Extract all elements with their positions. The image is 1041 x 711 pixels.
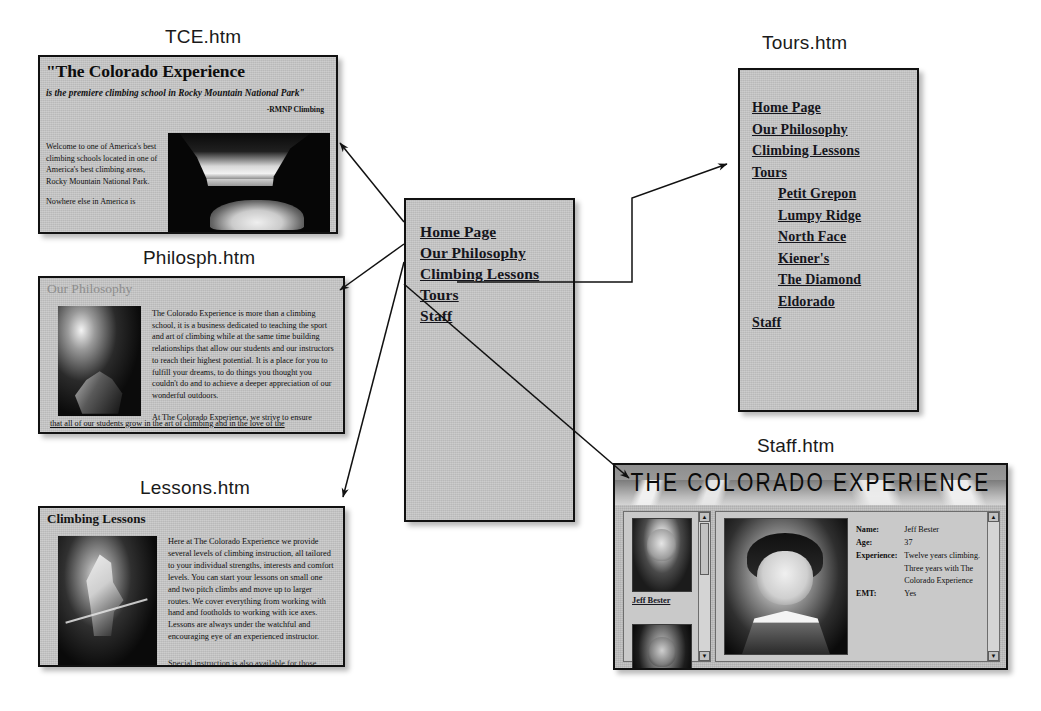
nav-link[interactable]: Our Philosophy (420, 243, 526, 263)
center-nav-item: Our Philosophy (420, 243, 573, 263)
nav-link[interactable]: Staff (420, 306, 452, 326)
staff-info-value: Jeff Bester (904, 524, 981, 537)
staff-info-value: Yes (904, 588, 981, 601)
nav-link[interactable]: Lumpy Ridge (778, 207, 861, 225)
staff-thumbnail-1[interactable] (632, 518, 692, 592)
staff-info-key: Experience: (856, 550, 904, 588)
philosophy-title: Our Philosophy (47, 281, 343, 297)
nav-link[interactable]: Kiener's (778, 250, 829, 268)
staff-info-row: Experience:Twelve years climbing. Three … (856, 550, 981, 588)
tours-subnav-item: Kiener's (752, 249, 917, 268)
tce-paragraph-1: Welcome to one of America's best climbin… (46, 141, 164, 187)
tours-subnav-item: The Diamond (752, 270, 917, 289)
tours-subnav-item: Eldorado (752, 292, 917, 311)
nav-link[interactable]: Staff (752, 314, 781, 332)
tce-headline: "The Colorado Experience (46, 61, 336, 82)
nav-link[interactable]: Our Philosophy (752, 121, 848, 139)
climber-photo (58, 306, 141, 416)
mountain-lake-photo (168, 133, 330, 232)
scroll-down-icon[interactable]: ▼ (988, 651, 999, 661)
nav-link[interactable]: Home Page (420, 222, 496, 242)
tours-subnav-item: Lumpy Ridge (752, 206, 917, 225)
portrait-collar (742, 611, 830, 654)
staff-thumbnail-link[interactable]: Jeff Bester (632, 596, 670, 605)
center-nav-item: Home Page (420, 222, 573, 242)
tours-nav-list: Home PageOur PhilosophyClimbing LessonsT… (752, 98, 917, 332)
nav-link[interactable]: North Face (778, 228, 846, 246)
caption-philosophy: Philosph.htm (143, 247, 255, 269)
staff-info-key: Age: (856, 537, 904, 550)
thumbnail-face (648, 637, 676, 667)
lessons-paragraph-1: Here at The Colorado Experience we provi… (168, 536, 335, 643)
photo-climber-figure (80, 554, 128, 636)
caption-lessons: Lessons.htm (140, 477, 250, 499)
arrow-lessons-to-lessons (343, 262, 404, 497)
tce-attribution: -RMNP Climbing (40, 105, 324, 114)
staff-info-table: Name:Jeff BesterAge:37Experience:Twelve … (856, 524, 981, 601)
staff-info-row: EMT:Yes (856, 588, 981, 601)
page-panel-staff[interactable]: THE COLORADO EXPERIENCE Jeff Bester ▲ ▼ (613, 463, 1008, 670)
nav-link[interactable]: Petit Grepon (778, 185, 856, 203)
staff-right-scrollbar[interactable]: ▲ ▼ (987, 512, 999, 661)
tours-subnav-item: North Face (752, 227, 917, 246)
tours-nav-item: Climbing Lessons (752, 141, 917, 160)
nav-link[interactable]: Climbing Lessons (752, 142, 860, 160)
lessons-body-text: Here at The Colorado Experience we provi… (168, 536, 335, 643)
scroll-down-icon[interactable]: ▼ (699, 651, 710, 661)
staff-details: Name:Jeff BesterAge:37Experience:Twelve … (856, 524, 981, 601)
page-panel-center-nav[interactable]: Home PageOur PhilosophyClimbing LessonsT… (404, 198, 575, 522)
site-map-diagram: TCE.htm "The Colorado Experience is the … (0, 0, 1041, 711)
page-panel-tours[interactable]: Home PageOur PhilosophyClimbing LessonsT… (738, 68, 919, 412)
center-nav-item: Staff (420, 306, 573, 326)
page-panel-lessons[interactable]: Climbing Lessons Here at The Colorado Ex… (38, 506, 345, 667)
caption-staff: Staff.htm (757, 435, 835, 457)
caption-tours: Tours.htm (762, 32, 847, 54)
scroll-up-icon[interactable]: ▲ (699, 512, 710, 522)
philosophy-paragraph-1: The Colorado Experience is more than a c… (152, 308, 335, 402)
philosophy-body-text: The Colorado Experience is more than a c… (152, 308, 335, 433)
scroll-up-icon[interactable]: ▲ (988, 512, 999, 522)
photo-snowfield (210, 200, 304, 230)
portrait-face (757, 551, 813, 605)
arrow-philosophy-to-philosph (340, 244, 404, 290)
staff-thumbnail-frame[interactable]: Jeff Bester ▲ ▼ (623, 511, 711, 662)
jeff-bester-portrait (724, 518, 848, 655)
staff-thumbnail-2[interactable] (632, 624, 692, 670)
tce-paragraph-2: Nowhere else in America is (46, 196, 164, 208)
ice-climber-photo (58, 536, 157, 667)
staff-info-key: EMT: (856, 588, 904, 601)
nav-link[interactable]: Tours (752, 164, 787, 182)
nav-link[interactable]: Eldorado (778, 293, 835, 311)
staff-info-row: Age:37 (856, 537, 981, 550)
staff-banner-title: THE COLORADO EXPERIENCE (615, 468, 1006, 497)
center-nav-item: Tours (420, 285, 573, 305)
nav-link[interactable]: Climbing Lessons (420, 264, 539, 284)
lessons-title: Climbing Lessons (47, 511, 343, 527)
tours-nav-item: Tours (752, 163, 917, 182)
nav-link[interactable]: Tours (420, 285, 459, 305)
tce-subhead: is the premiere climbing school in Rocky… (46, 88, 336, 98)
staff-banner: THE COLORADO EXPERIENCE (615, 465, 1006, 505)
nav-link[interactable]: Home Page (752, 99, 821, 117)
tours-nav-item: Home Page (752, 98, 917, 117)
tours-subnav-item: Petit Grepon (752, 184, 917, 203)
staff-info-row: Name:Jeff Bester (856, 524, 981, 537)
photo-climber-figure (73, 365, 124, 413)
philosophy-paragraph-3: that all of our students grow in the art… (50, 418, 335, 430)
staff-info-key: Name: (856, 524, 904, 537)
staff-detail-frame[interactable]: Name:Jeff BesterAge:37Experience:Twelve … (715, 511, 1000, 662)
thumbnail-face (647, 529, 676, 561)
center-nav-item: Climbing Lessons (420, 264, 573, 284)
staff-left-scrollbar[interactable]: ▲ ▼ (698, 512, 710, 661)
center-nav-list: Home PageOur PhilosophyClimbing LessonsT… (420, 222, 573, 326)
scrollbar-thumb[interactable] (700, 523, 709, 575)
page-panel-tce[interactable]: "The Colorado Experience is the premiere… (38, 55, 338, 234)
staff-info-value: 37 (904, 537, 981, 550)
arrow-home-to-tce (340, 143, 404, 222)
tours-nav-item: Our Philosophy (752, 120, 917, 139)
nav-link[interactable]: The Diamond (778, 271, 861, 289)
lessons-paragraph-2: Special instruction is also available fo… (168, 658, 335, 666)
tce-body-text: Welcome to one of America's best climbin… (46, 141, 164, 217)
caption-tce: TCE.htm (165, 26, 241, 48)
page-panel-philosophy[interactable]: Our Philosophy The Colorado Experience i… (38, 276, 345, 434)
